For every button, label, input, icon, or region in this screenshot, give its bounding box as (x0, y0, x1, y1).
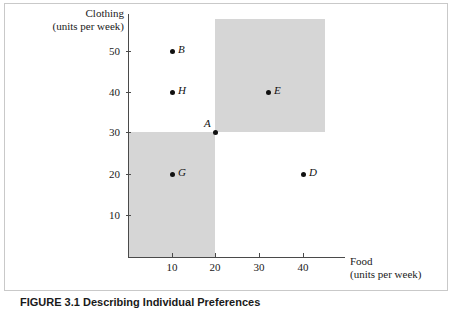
data-point-label-a: A (204, 118, 211, 129)
y-tick-label-10: 10 (94, 210, 120, 221)
data-point-g (170, 172, 175, 177)
y-tick-50 (126, 51, 131, 52)
x-tick-label-30: 30 (246, 262, 272, 273)
y-tick-40 (126, 92, 131, 93)
data-point-e (266, 90, 271, 95)
x-tick-label-10: 10 (159, 262, 185, 273)
data-point-a (213, 130, 218, 135)
data-point-label-d: D (309, 167, 317, 178)
y-tick-label-50: 50 (94, 46, 120, 57)
y-axis-title-line1: Clothing (20, 7, 124, 20)
y-tick-label-20: 20 (94, 169, 120, 180)
plot-area: 50 40 30 20 10 10 20 30 40 Clothing (uni… (0, 0, 453, 309)
y-tick-30 (126, 132, 131, 133)
y-tick-10 (126, 215, 131, 216)
figure-caption: FIGURE 3.1 Describing Individual Prefere… (20, 296, 260, 308)
data-point-label-h: H (178, 85, 186, 96)
x-tick-10 (172, 253, 173, 258)
data-point-b (170, 49, 175, 54)
shaded-region-less-preferred-than-a (129, 132, 215, 257)
x-axis-title-line1: Food (350, 255, 450, 268)
x-tick-40 (303, 253, 304, 258)
data-point-h (170, 90, 175, 95)
y-axis-title: Clothing (units per week) (20, 7, 124, 33)
x-axis-line (128, 257, 345, 258)
x-tick-label-20: 20 (202, 262, 228, 273)
shaded-region-preferred-to-a (215, 19, 325, 132)
y-tick-label-40: 40 (94, 87, 120, 98)
data-point-d (301, 172, 306, 177)
y-tick-20 (126, 174, 131, 175)
x-axis-title: Food (units per week) (350, 255, 450, 281)
figure-container: 50 40 30 20 10 10 20 30 40 Clothing (uni… (0, 0, 453, 309)
data-point-label-g: G (178, 167, 186, 178)
x-tick-20 (215, 253, 216, 258)
data-point-label-b: B (178, 44, 185, 55)
x-tick-label-40: 40 (290, 262, 316, 273)
y-tick-label-30: 30 (94, 127, 120, 138)
y-axis-title-line2: (units per week) (20, 20, 124, 33)
x-tick-30 (259, 253, 260, 258)
x-axis-title-line2: (units per week) (350, 268, 450, 281)
data-point-label-e: E (274, 85, 281, 96)
